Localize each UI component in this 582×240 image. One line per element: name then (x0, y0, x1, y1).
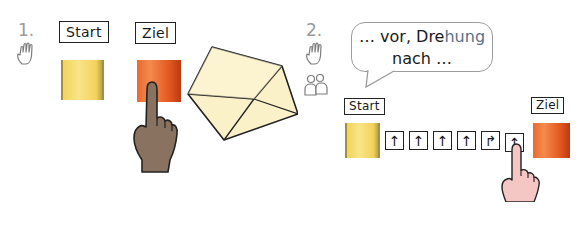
pointing-hand-icon (130, 78, 180, 174)
speech-text-highlight: hung (444, 27, 485, 46)
folded-paper-icon (186, 42, 298, 142)
pointing-hand-icon (498, 142, 548, 202)
speech-bubble-tail (364, 70, 404, 90)
command-forward[interactable]: ↑ (409, 131, 428, 150)
task2-number: 2. (306, 20, 322, 40)
speech-line-2: nach … (352, 48, 492, 70)
task1-start-label: Start (59, 21, 109, 43)
command-forward[interactable]: ↑ (433, 131, 452, 150)
command-forward[interactable]: ↑ (457, 131, 476, 150)
command-forward[interactable]: ↑ (385, 131, 404, 150)
speech-bubble: … vor, Drehung nach … (351, 22, 493, 72)
speech-line-1: … vor, Drehung (352, 26, 492, 48)
task1-number: 1. (18, 20, 34, 40)
task2-start-label: Start (344, 98, 385, 115)
task1-goal-label: Ziel (135, 22, 176, 44)
hand-icon (16, 42, 38, 66)
task1-start-tile[interactable] (61, 60, 104, 100)
speech-text-a: … vor, Dre (359, 27, 444, 46)
partner-work-icon (304, 74, 328, 96)
hand-icon (305, 42, 327, 66)
task2-goal-label: Ziel (531, 97, 564, 114)
task2-start-tile[interactable] (345, 123, 380, 158)
